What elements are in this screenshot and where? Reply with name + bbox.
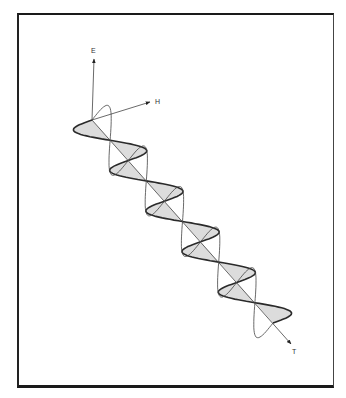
time-axis-arrow [92,120,291,344]
h-axis-arrow [92,102,150,120]
em-wave-diagram: E H T [0,0,346,398]
electric-field-wave [92,105,273,337]
e-axis-arrow [92,59,94,120]
e-axis-label: E [91,47,96,54]
t-axis-label: T [292,348,297,355]
h-axis-label: H [155,98,160,105]
